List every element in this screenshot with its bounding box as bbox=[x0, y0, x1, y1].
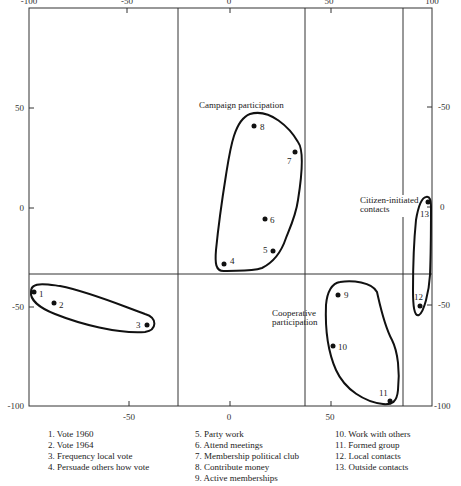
point-label-7: 7 bbox=[287, 156, 292, 166]
legend-item-1: 1. Vote 1960 bbox=[48, 429, 149, 440]
point-11 bbox=[388, 399, 393, 404]
legend-column-1: 1. Vote 1960 2. Vote 1964 3. Frequency l… bbox=[48, 429, 149, 473]
point-9 bbox=[336, 293, 341, 298]
tick-bottom-0: 0 bbox=[227, 412, 232, 422]
scatter-chart: -100 -50 0 50 100 -50 0 50 50 0 -50 -100… bbox=[0, 0, 461, 486]
bottom-ticks bbox=[129, 401, 331, 406]
tick-bottom-50: 50 bbox=[326, 412, 336, 422]
legend-item-3: 3. Frequency local vote bbox=[48, 451, 149, 462]
point-3 bbox=[145, 323, 150, 328]
cluster-label-campaign: Campaign participation bbox=[199, 100, 284, 110]
point-7 bbox=[293, 150, 298, 155]
tick-right-neg50: -50 bbox=[438, 300, 450, 310]
cluster-label-contacts-2: contacts bbox=[360, 204, 390, 214]
point-label-10: 10 bbox=[338, 342, 348, 352]
point-label-9: 9 bbox=[344, 290, 349, 300]
legend-item-12: 12. Local contacts bbox=[335, 451, 411, 462]
point-10 bbox=[331, 344, 336, 349]
legend-column-2: 5. Party work 6. Attend meetings 7. Memb… bbox=[195, 429, 299, 484]
point-label-2: 2 bbox=[59, 300, 64, 310]
point-label-5: 5 bbox=[263, 245, 268, 255]
cluster-label-cooperative-2: participation bbox=[272, 317, 318, 327]
point-label-1: 1 bbox=[39, 289, 44, 299]
cluster-outline-campaign bbox=[216, 113, 302, 271]
point-6 bbox=[263, 217, 268, 222]
tick-left-0: 0 bbox=[20, 203, 25, 213]
point-label-6: 6 bbox=[270, 215, 275, 225]
point-12 bbox=[418, 304, 423, 309]
legend-item-6: 6. Attend meetings bbox=[195, 440, 299, 451]
tick-right-0: 0 bbox=[440, 202, 445, 212]
point-label-13: 13 bbox=[420, 209, 430, 219]
legend-item-7: 7. Membership political club bbox=[195, 451, 299, 462]
legend-item-11: 11. Formed group bbox=[335, 440, 411, 451]
legend-item-4: 4. Persuade others how vote bbox=[48, 462, 149, 473]
point-2 bbox=[52, 301, 57, 306]
legend-column-3: 10. Work with others 11. Formed group 12… bbox=[335, 429, 411, 473]
legend-item-8: 8. Contribute money bbox=[195, 462, 299, 473]
tick-right-top: -50 bbox=[438, 102, 450, 112]
point-8 bbox=[252, 124, 257, 129]
point-5 bbox=[271, 249, 276, 254]
top-ticks bbox=[127, 8, 331, 13]
point-1 bbox=[32, 290, 37, 295]
cluster-outline-cooperative bbox=[326, 281, 399, 404]
legend-item-5: 5. Party work bbox=[195, 429, 299, 440]
tick-left-neg50: -50 bbox=[12, 302, 24, 312]
point-label-4: 4 bbox=[230, 256, 235, 266]
tick-bottom-neg50: -50 bbox=[123, 412, 135, 422]
legend-item-9: 9. Active memberships bbox=[195, 473, 299, 484]
left-ticks bbox=[29, 108, 34, 307]
tick-top-neg50: -50 bbox=[121, 0, 133, 6]
tick-left-50: 50 bbox=[15, 103, 25, 113]
point-4 bbox=[222, 262, 227, 267]
legend-item-10: 10. Work with others bbox=[335, 429, 411, 440]
tick-top-100: 100 bbox=[425, 0, 439, 6]
point-label-11: 11 bbox=[379, 388, 388, 398]
tick-left-neg100: -100 bbox=[8, 401, 25, 411]
tick-top-50: 50 bbox=[325, 0, 335, 6]
legend-item-13: 13. Outside contacts bbox=[335, 462, 411, 473]
point-label-12: 12 bbox=[414, 292, 423, 302]
tick-top-0: 0 bbox=[227, 0, 232, 6]
legend-item-2: 2. Vote 1964 bbox=[48, 440, 149, 451]
point-13 bbox=[426, 200, 431, 205]
tick-top-neg100: -100 bbox=[21, 0, 38, 6]
point-label-3: 3 bbox=[136, 320, 141, 330]
point-label-8: 8 bbox=[260, 122, 265, 132]
tick-right-neg100: -100 bbox=[434, 401, 451, 411]
